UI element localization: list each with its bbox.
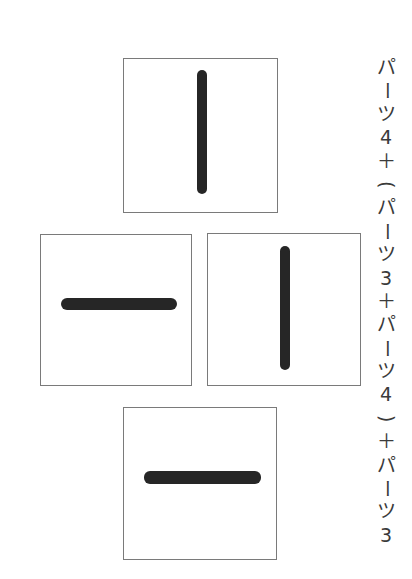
vertical-stroke-right — [280, 246, 290, 370]
caption-char: 3 — [372, 524, 400, 547]
caption-char: ( — [374, 171, 397, 199]
vertical-stroke-top — [197, 70, 207, 194]
caption-char: ー — [374, 217, 397, 245]
caption-char: 4 — [372, 126, 400, 149]
caption-char: ツ — [372, 500, 400, 523]
caption-char: ) — [374, 405, 397, 433]
caption-char: パ — [372, 313, 400, 336]
caption-char: 4 — [372, 383, 400, 406]
caption-char: ー — [374, 475, 397, 503]
caption-char: ツ — [372, 243, 400, 266]
horizontal-stroke-left — [61, 298, 177, 310]
panel-left-part3 — [40, 234, 192, 386]
caption-char: ＋ — [372, 150, 400, 173]
vertical-caption: パ ー ツ 4 ＋ ( パ ー ツ 3 ＋ パ ー ツ 4 ) ＋ パ ー ツ … — [372, 56, 400, 547]
caption-char: ＋ — [372, 290, 400, 313]
caption-char: ー — [374, 77, 397, 105]
caption-char: パ — [372, 454, 400, 477]
caption-char: 3 — [372, 267, 400, 290]
horizontal-stroke-bottom — [144, 471, 261, 484]
caption-char: ツ — [372, 360, 400, 383]
caption-char: ー — [374, 334, 397, 362]
caption-char: ＋ — [372, 430, 400, 453]
caption-char: パ — [372, 196, 400, 219]
caption-char: ツ — [372, 103, 400, 126]
